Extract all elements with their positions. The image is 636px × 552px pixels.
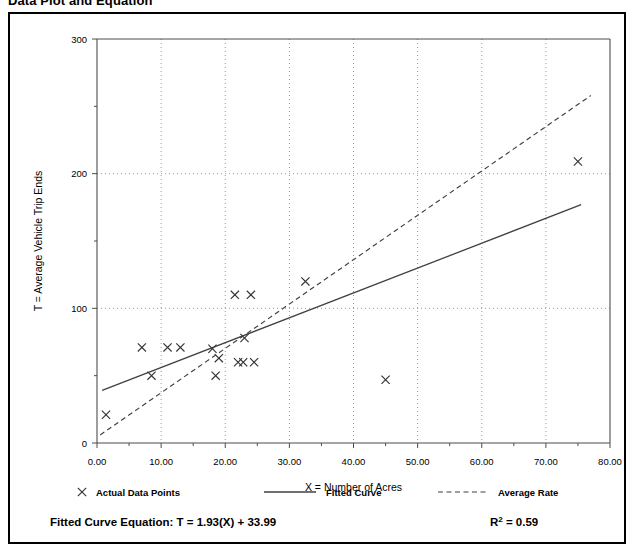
y-tick-label: 100 xyxy=(71,303,87,314)
average-rate-line xyxy=(100,96,591,435)
legend-label-average-rate: Average Rate xyxy=(498,487,558,498)
data-point xyxy=(138,343,146,351)
x-tick-label: 60.00 xyxy=(470,456,494,467)
data-point xyxy=(212,372,220,380)
x-tick-label: 50.00 xyxy=(406,456,430,467)
r-squared-value: R2 = 0.59 xyxy=(490,515,538,528)
y-axis-title: T = Average Vehicle Trip Ends xyxy=(32,171,44,312)
x-tick-label: 70.00 xyxy=(534,456,558,467)
data-point xyxy=(574,157,582,165)
x-tick-label: 80.00 xyxy=(598,456,622,467)
x-tick-label: 20.00 xyxy=(213,456,237,467)
y-tick-label: 0 xyxy=(82,438,87,449)
fitted-curve-equation: Fitted Curve Equation: T = 1.93(X) + 33.… xyxy=(50,516,276,528)
y-tick-label: 300 xyxy=(71,34,87,45)
data-point xyxy=(231,291,239,299)
y-tick-label: 200 xyxy=(71,168,87,179)
data-point xyxy=(301,277,309,285)
data-point xyxy=(163,343,171,351)
x-tick-label: 0.00 xyxy=(88,456,107,467)
data-point xyxy=(247,291,255,299)
x-tick-label: 40.00 xyxy=(342,456,366,467)
x-tick-label: 10.00 xyxy=(149,456,173,467)
fitted-curve-line xyxy=(102,205,581,391)
data-point xyxy=(176,343,184,351)
data-points-group xyxy=(102,157,582,418)
data-point xyxy=(381,376,389,384)
data-plot-chart: 0.0010.0020.0030.0040.0050.0060.0070.008… xyxy=(10,14,624,542)
data-point xyxy=(250,358,258,366)
page-title: Data Plot and Equation xyxy=(8,0,152,8)
legend-label-actual-data-points: Actual Data Points xyxy=(96,487,180,498)
data-point xyxy=(102,411,110,419)
data-point xyxy=(239,358,247,366)
figure-frame: 0.0010.0020.0030.0040.0050.0060.0070.008… xyxy=(8,12,626,544)
legend-label-fitted-curve: Fitted Curve xyxy=(326,487,381,498)
x-tick-label: 30.00 xyxy=(277,456,301,467)
